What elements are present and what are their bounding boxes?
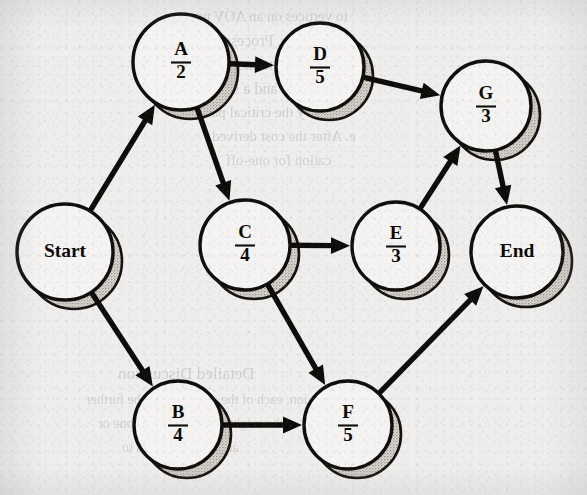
end-node-label: End <box>500 240 535 261</box>
node-g: G3 <box>441 61 531 151</box>
edge-a-c-arrowhead <box>215 180 231 201</box>
node-g-duration: 3 <box>481 105 491 126</box>
edge-c-f <box>268 285 325 385</box>
node-e: E3 <box>352 202 440 290</box>
scanned-figure-page: to vertices on an AOV nean activity. Pro… <box>0 0 587 495</box>
edge-e-g-shaft <box>420 159 452 208</box>
node-a-letter: A <box>174 38 188 59</box>
node-c: C4 <box>200 200 290 290</box>
edge-e-g <box>420 146 460 209</box>
edge-b-f <box>223 417 302 434</box>
edge-c-f-shaft <box>268 285 317 371</box>
node-f-letter: F <box>342 401 354 422</box>
node-d-duration: 5 <box>315 66 325 87</box>
edge-a-c-shaft <box>197 108 224 185</box>
edge-a-d-arrowhead <box>255 56 274 73</box>
edge-start-a <box>91 105 155 211</box>
edge-start-b-shaft <box>92 293 144 373</box>
node-b-letter: B <box>172 401 185 422</box>
edge-f-end <box>379 286 483 392</box>
node-layer: StartA2D5G3C4E3EndB4F5 <box>17 14 563 469</box>
edge-d-g-arrowhead <box>420 83 440 99</box>
start-node-label: Start <box>44 240 87 261</box>
node-c-letter: C <box>238 221 252 242</box>
edge-a-d-shaft <box>230 64 258 65</box>
node-e-duration: 3 <box>391 245 401 266</box>
edge-start-b <box>92 293 153 386</box>
node-f-duration: 5 <box>343 424 353 445</box>
activity-network-diagram: StartA2D5G3C4E3EndB4F5 <box>0 0 587 495</box>
edge-b-f-arrowhead <box>283 417 302 434</box>
node-a-duration: 2 <box>176 61 186 82</box>
edge-d-g <box>364 77 440 99</box>
node-c-duration: 4 <box>240 244 250 265</box>
start-node: Start <box>17 204 113 300</box>
node-b-duration: 4 <box>173 424 183 445</box>
node-d: D5 <box>276 23 364 111</box>
node-e-letter: E <box>390 222 403 243</box>
node-b: B4 <box>134 381 222 469</box>
edge-a-c <box>197 108 231 200</box>
edge-f-end-shaft <box>379 298 472 393</box>
node-d-letter: D <box>313 43 327 64</box>
end-node: End <box>471 206 563 298</box>
node-g-letter: G <box>479 82 494 103</box>
edge-c-e-arrowhead <box>331 237 350 254</box>
edge-g-end-arrowhead <box>495 185 511 205</box>
node-f: F5 <box>304 381 392 469</box>
edge-start-a-shaft <box>91 118 147 210</box>
node-a: A2 <box>133 14 229 110</box>
